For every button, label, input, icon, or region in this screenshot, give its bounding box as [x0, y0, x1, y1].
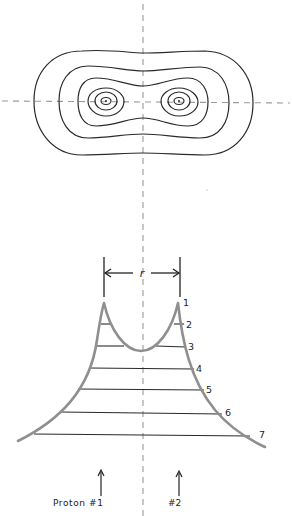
potential-well-panel: r 1 2 3 4 5 6 7 [18, 257, 265, 447]
r-label: r [140, 267, 146, 280]
level-line-4 [89, 368, 194, 369]
level-line-6 [60, 412, 222, 414]
potential-curve [18, 303, 265, 447]
nucleus-2-dot [178, 100, 180, 102]
level-line-5 [78, 389, 204, 390]
level-label-3: 3 [188, 341, 194, 352]
horizontal-axis-dashed [2, 101, 290, 103]
level-label-7: 7 [259, 429, 265, 440]
proton-1-label: Proton #1 [53, 498, 104, 508]
proton-2-label: #2 [168, 498, 181, 508]
level-label-1: 1 [183, 297, 189, 308]
level-line-3-right [156, 346, 186, 347]
stray-speck [206, 189, 207, 190]
nucleus-1-dot [105, 100, 107, 102]
level-label-6: 6 [225, 407, 231, 418]
proton-markers: Proton #1 #2 [53, 470, 182, 508]
level-label-2: 2 [186, 319, 192, 330]
contour-map [2, 4, 290, 516]
level-line-7 [34, 434, 250, 436]
level-label-5: 5 [206, 384, 212, 395]
hydrogen-molecule-diagram: r 1 2 3 4 5 6 7 Proton #1 [0, 0, 292, 516]
level-label-4: 4 [196, 363, 202, 374]
